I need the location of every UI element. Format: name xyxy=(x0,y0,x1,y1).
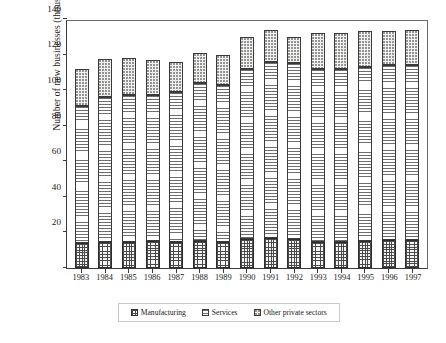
bar-segment-services xyxy=(334,69,348,242)
y-tick-label: 40 xyxy=(27,183,67,192)
x-tick-label: 1993 xyxy=(306,272,330,288)
y-tick-label: 140 xyxy=(27,5,67,14)
bar-segment-other xyxy=(382,31,396,65)
legend-label: Services xyxy=(212,308,238,317)
bar-segment-services xyxy=(358,67,372,241)
bar-segment-manufacturing xyxy=(216,242,230,268)
bar-segment-services xyxy=(382,65,396,240)
bar-segment-services xyxy=(75,106,89,243)
stacked-bar xyxy=(146,60,160,268)
bar-segment-other xyxy=(405,30,419,66)
stacked-bar xyxy=(382,31,396,268)
bar-segment-manufacturing xyxy=(240,239,254,268)
legend-label: Other private sectors xyxy=(263,308,326,317)
bar-segment-other xyxy=(193,53,207,83)
stacked-bar xyxy=(405,30,419,268)
bar-column xyxy=(400,21,424,268)
bar-column xyxy=(70,21,94,268)
x-tick-label: 1985 xyxy=(116,272,140,288)
bar-segment-other xyxy=(358,31,372,67)
bar-segment-services xyxy=(311,69,325,242)
bar-group xyxy=(67,21,427,268)
y-tick-label: 20 xyxy=(27,219,67,228)
y-tick-label: 80 xyxy=(27,112,67,121)
x-tick-label: 1992 xyxy=(283,272,307,288)
x-tick-label: 1989 xyxy=(211,272,235,288)
bar-column xyxy=(353,21,377,268)
bar-segment-other xyxy=(98,59,112,97)
bar-column xyxy=(306,21,330,268)
bar-segment-manufacturing xyxy=(382,240,396,268)
y-tick-mark xyxy=(63,18,67,19)
x-tick-label: 1984 xyxy=(93,272,117,288)
plot-area: 20406080100120140 xyxy=(66,20,428,269)
y-tick-label: 120 xyxy=(27,41,67,50)
bar-segment-manufacturing xyxy=(311,242,325,268)
x-tick-label: 1988 xyxy=(188,272,212,288)
bar-segment-manufacturing xyxy=(75,243,89,268)
bar-column xyxy=(188,21,212,268)
bar-segment-manufacturing xyxy=(146,241,160,268)
x-axis-labels: 1983198419851986198719881989199019911992… xyxy=(66,272,428,288)
stacked-bar xyxy=(358,31,372,268)
stacked-bar xyxy=(169,62,183,268)
bar-segment-other xyxy=(122,58,136,94)
stacked-bar xyxy=(75,69,89,268)
x-tick-label: 1983 xyxy=(69,272,93,288)
x-tick-label: 1986 xyxy=(140,272,164,288)
stacked-bar xyxy=(98,59,112,268)
legend-item[interactable]: Other private sectors xyxy=(254,308,327,317)
bar-column xyxy=(259,21,283,268)
bar-segment-other xyxy=(146,60,160,95)
bar-segment-services xyxy=(169,92,183,242)
bar-column xyxy=(117,21,141,268)
legend-swatch-icon xyxy=(131,309,138,316)
bar-segment-manufacturing xyxy=(334,242,348,268)
bar-segment-manufacturing xyxy=(98,242,112,268)
bar-segment-other xyxy=(334,33,348,69)
bar-segment-services xyxy=(264,62,278,238)
bar-column xyxy=(282,21,306,268)
x-tick-label: 1987 xyxy=(164,272,188,288)
bar-column xyxy=(212,21,236,268)
bar-segment-services xyxy=(98,97,112,242)
legend-item[interactable]: Manufacturing xyxy=(131,308,186,317)
stacked-bar xyxy=(193,53,207,268)
bar-segment-services xyxy=(287,63,301,238)
legend-swatch-icon xyxy=(202,309,209,316)
bar-column xyxy=(164,21,188,268)
stacked-bar xyxy=(264,30,278,268)
bar-segment-manufacturing xyxy=(193,241,207,268)
bar-segment-other xyxy=(264,30,278,62)
bar-column xyxy=(141,21,165,268)
bar-segment-other xyxy=(75,69,89,106)
bar-segment-manufacturing xyxy=(405,240,419,268)
stacked-bar xyxy=(216,55,230,268)
bar-column xyxy=(94,21,118,268)
bar-segment-services xyxy=(122,95,136,243)
bar-segment-manufacturing xyxy=(169,242,183,268)
y-tick-label: 60 xyxy=(27,147,67,156)
stacked-bar xyxy=(311,33,325,268)
bar-segment-other xyxy=(287,37,301,64)
x-tick-label: 1997 xyxy=(401,272,425,288)
stacked-bar xyxy=(122,58,136,268)
x-tick-label: 1996 xyxy=(378,272,402,288)
legend-swatch-icon xyxy=(254,309,261,316)
bar-segment-services xyxy=(405,65,419,240)
bar-segment-other xyxy=(311,33,325,69)
bar-column xyxy=(235,21,259,268)
x-tick-label: 1990 xyxy=(235,272,259,288)
x-tick-label: 1994 xyxy=(330,272,354,288)
stacked-bar xyxy=(334,33,348,268)
bar-segment-other xyxy=(240,37,254,69)
chart-legend: ManufacturingServicesOther private secto… xyxy=(118,303,340,322)
bar-segment-services xyxy=(146,95,160,242)
stacked-bar xyxy=(240,37,254,268)
legend-item[interactable]: Services xyxy=(202,308,237,317)
bar-segment-manufacturing xyxy=(287,239,301,268)
x-tick-label: 1991 xyxy=(259,272,283,288)
bar-column xyxy=(330,21,354,268)
chart-figure: Number of new businesses (thousands) 204… xyxy=(0,0,446,343)
bar-segment-manufacturing xyxy=(264,238,278,268)
